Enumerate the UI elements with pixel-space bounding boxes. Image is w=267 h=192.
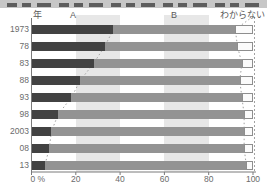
bar-row-93 [32,93,253,102]
cropped-caption-text-remnant [7,3,260,7]
year-label-83: 83 [0,59,29,68]
stacked-bar-chart: 年 A B わからない 19737883889398200308130 %204… [0,8,267,192]
bar-row-1973 [32,25,253,34]
segment-dk-13 [246,161,253,170]
segment-dk-1973 [235,25,253,34]
column-label-dk: わからない [217,10,265,21]
year-label-78: 78 [0,42,29,51]
year-label-1973: 1973 [0,25,29,34]
segment-a-08 [32,144,50,153]
segment-dk-88 [240,76,253,85]
year-label-08: 08 [0,144,29,153]
segment-b-98 [58,110,244,119]
segment-b-78 [105,42,238,51]
bar-row-88 [32,76,253,85]
segment-a-93 [32,93,72,102]
segment-a-1973 [32,25,114,34]
column-label-a: A [62,10,84,21]
column-label-b: B [163,10,185,21]
segment-a-83 [32,59,94,68]
segment-a-88 [32,76,81,85]
bar-row-83 [32,59,253,68]
segment-b-1973 [113,25,235,34]
x-tick-label-40: 40 [107,174,133,184]
segment-dk-83 [242,59,253,68]
x-tick-label-0: 0 % [31,174,57,184]
year-label-13: 13 [0,161,29,170]
screenshot-root: 年 A B わからない 19737883889398200308130 %204… [0,0,267,192]
year-label-98: 98 [0,110,29,119]
segment-a-2003 [32,127,52,136]
segment-dk-93 [242,93,253,102]
segment-a-13 [32,161,45,170]
segment-dk-98 [244,110,253,119]
segment-a-78 [32,42,105,51]
segment-dk-78 [237,42,253,51]
segment-b-88 [80,76,239,85]
year-label-93: 93 [0,93,29,102]
cropped-caption-strip [0,0,267,8]
segment-b-13 [45,161,247,170]
bar-row-78 [32,42,253,51]
y-axis-title: 年 [33,10,45,21]
segment-b-83 [94,59,242,68]
x-tick-label-60: 60 [151,174,177,184]
segment-dk-2003 [244,127,253,136]
bar-row-98 [32,110,253,119]
segment-b-93 [71,93,242,102]
x-tick-label-80: 80 [196,174,222,184]
year-label-2003: 2003 [0,127,29,136]
segment-b-2003 [51,127,244,136]
segment-dk-08 [244,144,253,153]
bar-row-08 [32,144,253,153]
bar-row-2003 [32,127,253,136]
x-tick-label-20: 20 [63,174,89,184]
year-label-88: 88 [0,76,29,85]
bar-row-13 [32,161,253,170]
x-tick-label-100: 100 [240,174,266,184]
segment-a-98 [32,110,59,119]
segment-b-08 [49,144,244,153]
